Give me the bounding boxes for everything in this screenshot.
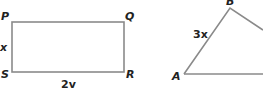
diagram: P Q R S x 2v A B 3x <box>0 0 263 89</box>
triangle-sides-ab-bc <box>184 8 263 74</box>
side-label-ab: 3x <box>193 28 208 41</box>
vertex-label-r: R <box>126 68 134 81</box>
side-label-bottom: 2v <box>61 78 77 89</box>
side-label-left: x <box>0 41 8 54</box>
vertex-label-s: S <box>1 68 9 81</box>
rectangle-pqrs <box>12 22 124 72</box>
vertex-label-q: Q <box>125 10 134 23</box>
vertex-label-a: A <box>171 70 181 83</box>
vertex-label-p: P <box>1 10 9 23</box>
vertex-label-b: B <box>226 0 234 8</box>
